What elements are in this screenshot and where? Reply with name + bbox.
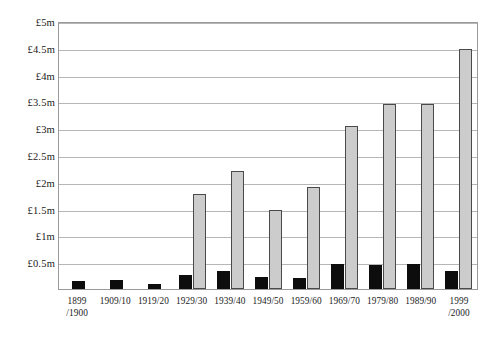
x-tick-label: 1989/90 <box>402 296 440 336</box>
bar-group <box>135 23 173 289</box>
bar-group <box>211 23 249 289</box>
x-tick-label: 1969/70 <box>325 296 363 336</box>
plot-area <box>58 22 478 290</box>
bar-series-b[interactable] <box>383 104 396 289</box>
y-tick-label: £4.5m <box>0 43 55 54</box>
y-tick-label: £3.5m <box>0 97 55 108</box>
x-tick-label-line1: 1969/70 <box>329 296 360 306</box>
x-tick-label: 1979/80 <box>364 296 402 336</box>
x-axis: 1899/19001909/101919/201929/301939/40194… <box>58 296 478 336</box>
bar-series-b[interactable] <box>345 126 358 289</box>
bar-series-b[interactable] <box>269 210 282 289</box>
y-axis: £5m£4.5m£4m£3.5m£3m£2.5m£2m£1.5m£1m£0.5m <box>0 0 55 337</box>
bar-group <box>173 23 211 289</box>
x-tick-label: 1919/20 <box>134 296 172 336</box>
y-tick-label: £2.5m <box>0 151 55 162</box>
bar-series-a[interactable] <box>72 281 85 289</box>
x-tick-label: 1949/50 <box>249 296 287 336</box>
bar-series-a[interactable] <box>293 278 306 289</box>
bar-series-a[interactable] <box>331 264 344 289</box>
x-tick-label: 1939/40 <box>211 296 249 336</box>
x-tick-label-line2: /2000 <box>440 308 478 320</box>
bar-series-a[interactable] <box>445 271 458 289</box>
y-tick-label: £5m <box>0 17 55 28</box>
bar-group <box>439 23 477 289</box>
y-tick-label: £2m <box>0 177 55 188</box>
bar-series-a[interactable] <box>179 275 192 289</box>
x-tick-label: 1899/1900 <box>58 296 96 336</box>
bar-series-a[interactable] <box>217 271 230 289</box>
x-tick-label-line1: 1959/60 <box>291 296 322 306</box>
bar-series-b[interactable] <box>193 194 206 289</box>
x-tick-label: 1909/10 <box>96 296 134 336</box>
x-tick-label-line1: 1979/80 <box>367 296 398 306</box>
x-tick-label-line1: 1909/10 <box>100 296 131 306</box>
bar-series-a[interactable] <box>369 265 382 289</box>
x-tick-label-line1: 1949/50 <box>252 296 283 306</box>
y-tick-label: £0.5m <box>0 258 55 269</box>
bar-series-b[interactable] <box>459 49 472 289</box>
y-tick-label: £1.5m <box>0 204 55 215</box>
bar-group <box>325 23 363 289</box>
bar-series-a[interactable] <box>148 284 161 289</box>
bar-group <box>249 23 287 289</box>
bar-chart: £5m£4.5m£4m£3.5m£3m£2.5m£2m£1.5m£1m£0.5m… <box>0 0 496 337</box>
bar-series-a[interactable] <box>255 277 268 289</box>
x-tick-label-line1: 1939/40 <box>214 296 245 306</box>
bars-layer <box>59 23 477 289</box>
bar-group <box>97 23 135 289</box>
x-tick-label-line1: 1989/90 <box>405 296 436 306</box>
x-tick-label-line2: /1900 <box>58 308 96 320</box>
bar-group <box>363 23 401 289</box>
x-tick-label-line1: 1899 <box>68 296 87 306</box>
x-tick-label-line1: 1929/30 <box>176 296 207 306</box>
bar-series-a[interactable] <box>407 264 420 289</box>
bar-series-b[interactable] <box>307 187 320 289</box>
x-tick-label: 1959/60 <box>287 296 325 336</box>
bar-group <box>401 23 439 289</box>
bar-group <box>287 23 325 289</box>
y-tick-label: £3m <box>0 124 55 135</box>
x-tick-label-line1: 1919/20 <box>138 296 169 306</box>
x-tick-label-line1: 1999 <box>449 296 468 306</box>
y-tick-label: £1m <box>0 231 55 242</box>
bar-group <box>59 23 97 289</box>
y-tick-label: £4m <box>0 70 55 81</box>
bar-series-b[interactable] <box>421 104 434 289</box>
x-tick-label: 1929/30 <box>173 296 211 336</box>
bar-series-b[interactable] <box>231 171 244 289</box>
bar-series-a[interactable] <box>110 280 123 289</box>
x-tick-label: 1999/2000 <box>440 296 478 336</box>
